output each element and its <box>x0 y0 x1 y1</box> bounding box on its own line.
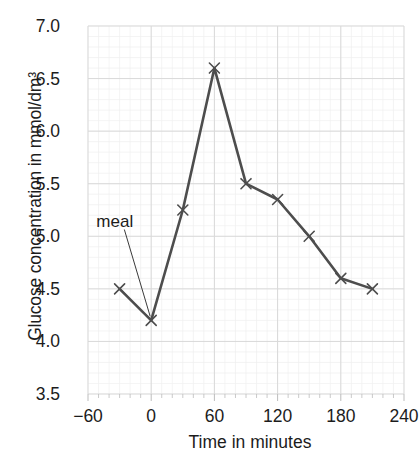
x-tick-label: −60 <box>73 406 103 427</box>
x-axis-label: Time in minutes <box>85 432 415 453</box>
x-tick-label: 240 <box>389 406 418 427</box>
y-tick-label: 6.5 <box>14 68 60 89</box>
minor-gridlines <box>88 26 404 394</box>
y-tick-label: 4.0 <box>14 331 60 352</box>
y-tick-label: 6.0 <box>14 121 60 142</box>
x-axis-tick-labels: −60060120180240 <box>0 406 413 432</box>
y-axis-tick-labels: 3.54.04.55.05.56.06.57.0 <box>14 0 60 460</box>
x-tick-label: 0 <box>146 406 156 427</box>
x-tick-label: 120 <box>263 406 292 427</box>
y-tick-label: 4.5 <box>14 278 60 299</box>
meal-annotation-label: meal <box>96 212 133 232</box>
x-tick-label: 180 <box>326 406 355 427</box>
x-tick-label: 60 <box>205 406 224 427</box>
y-tick-label: 3.5 <box>14 384 60 405</box>
y-tick-label: 5.0 <box>14 226 60 247</box>
meal-leader-line <box>124 230 150 317</box>
axis-ticks <box>88 394 404 401</box>
y-tick-label: 5.5 <box>14 173 60 194</box>
y-tick-label: 7.0 <box>14 16 60 37</box>
